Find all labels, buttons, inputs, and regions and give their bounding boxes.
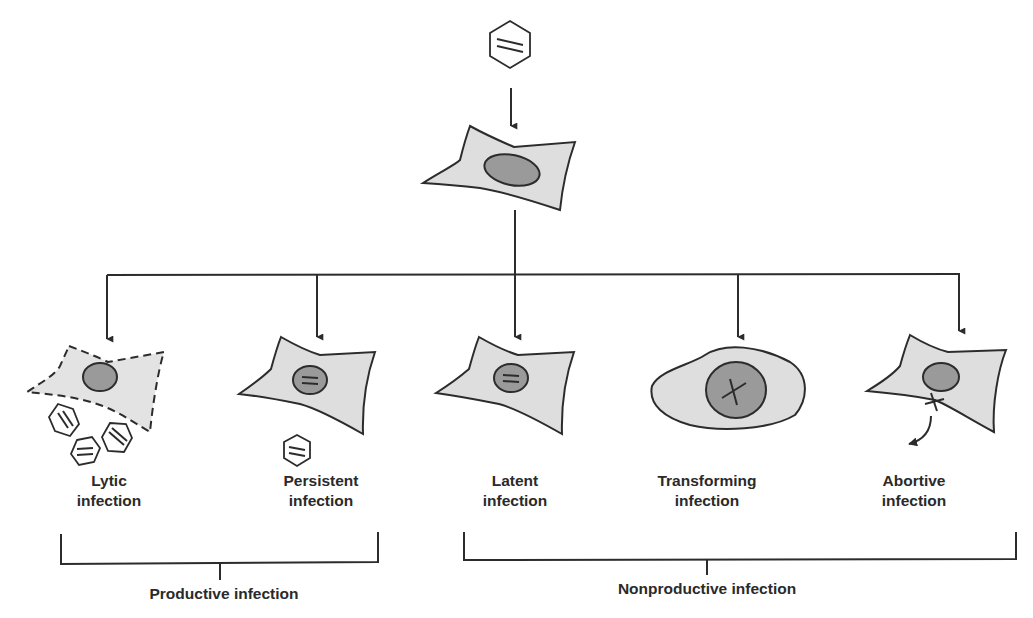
latent-cell-icon bbox=[436, 337, 574, 434]
transforming-cell-icon bbox=[651, 347, 804, 429]
latent-label-line2: infection bbox=[483, 491, 548, 511]
nonproductive-infection-label: Nonproductive infection bbox=[618, 580, 796, 598]
transforming-label: Transforming infection bbox=[657, 471, 756, 511]
abortive-label-line2: infection bbox=[882, 491, 947, 511]
lytic-cell-icon bbox=[27, 346, 164, 432]
persistent-label-line2: infection bbox=[284, 491, 359, 511]
virion-icon bbox=[490, 21, 530, 68]
lytic-label: Lytic infection bbox=[77, 471, 142, 511]
persistent-label: Persistent infection bbox=[284, 471, 359, 511]
persistent-progeny-virion-icon bbox=[284, 435, 310, 466]
abortive-label-line1: Abortive bbox=[882, 471, 947, 491]
lytic-label-line1: Lytic bbox=[77, 471, 142, 491]
transforming-label-line1: Transforming bbox=[657, 471, 756, 491]
nonproductive-bracket bbox=[464, 532, 1016, 575]
lytic-label-line2: infection bbox=[77, 491, 142, 511]
persistent-label-line1: Persistent bbox=[284, 471, 359, 491]
persistent-cell-icon bbox=[239, 337, 375, 434]
abortive-cell-icon bbox=[867, 335, 1006, 432]
productive-bracket bbox=[61, 532, 378, 580]
productive-infection-label: Productive infection bbox=[150, 585, 299, 603]
blocked-exit-icon bbox=[909, 393, 944, 444]
host-cell-icon bbox=[423, 126, 575, 210]
branch-connector bbox=[107, 210, 960, 339]
abortive-label: Abortive infection bbox=[882, 471, 947, 511]
latent-label-line1: Latent bbox=[483, 471, 548, 491]
latent-label: Latent infection bbox=[483, 471, 548, 511]
transforming-label-line2: infection bbox=[657, 491, 756, 511]
